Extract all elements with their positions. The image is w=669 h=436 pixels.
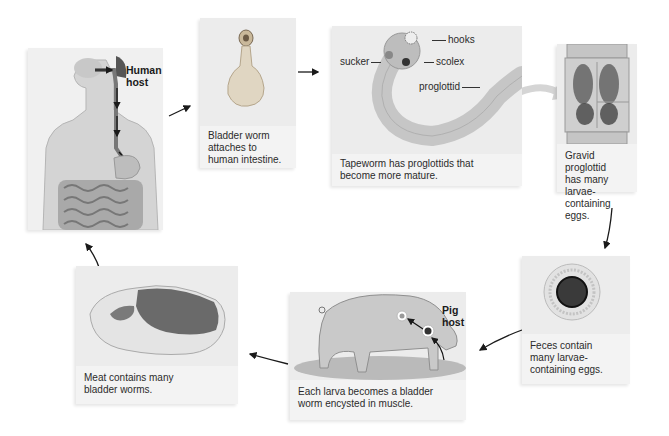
meat-illustration: [76, 266, 238, 366]
human-host-label-line2: host: [126, 76, 162, 88]
feces-caption: Feces contain many larvae- containing eg…: [522, 334, 630, 384]
pig-host-label-line2: host: [442, 316, 464, 328]
panel-feces-eggs: Feces contain many larvae- containing eg…: [522, 256, 630, 384]
callout-scolex-text: scolex: [436, 56, 464, 67]
caption-line: has many larvae-: [565, 174, 629, 198]
caption-line: attaches to: [208, 142, 288, 154]
caption-line: Feces contain: [530, 340, 622, 352]
panel-pig-host: Pig host Each larva becomes a bladder wo…: [290, 292, 466, 420]
panel-human-host: Human host: [28, 48, 163, 230]
caption-line: human intestine.: [208, 154, 288, 166]
panel-meat: Meat contains many bladder worms.: [76, 266, 238, 404]
caption-line: Gravid proglottid: [565, 150, 629, 174]
caption-line: worm encysted in muscle.: [298, 398, 458, 410]
gravid-proglottid-illustration: [557, 44, 637, 144]
callout-proglottid: proglottid: [419, 81, 480, 92]
arrow-feces-to-pig: [480, 330, 522, 350]
callout-proglottid-text: proglottid: [419, 81, 460, 92]
arrow-pig-to-meat: [250, 354, 288, 364]
meat-caption: Meat contains many bladder worms.: [76, 366, 238, 404]
caption-line: many larvae-: [530, 352, 622, 364]
caption-line: Meat contains many: [84, 372, 230, 384]
pig-caption: Each larva becomes a bladder worm encyst…: [290, 380, 466, 420]
callout-hooks-text: hooks: [448, 34, 475, 45]
pig-host-label-line1: Pig: [442, 304, 464, 316]
callout-sucker: sucker: [340, 56, 381, 67]
egg-illustration: [522, 256, 630, 328]
bladder-worm-illustration: [200, 18, 296, 126]
panel-gravid-proglottid: Gravid proglottid has many larvae- conta…: [557, 44, 637, 192]
callout-scolex: scolex: [424, 56, 464, 67]
tapeworm-caption: Tapeworm has proglottids that become mor…: [332, 154, 522, 186]
human-host-label-line1: Human: [126, 64, 162, 76]
caption-line: containing eggs.: [530, 364, 622, 376]
gravid-caption: Gravid proglottid has many larvae- conta…: [557, 144, 637, 192]
arrow-human-to-bladder: [169, 106, 190, 116]
caption-line: containing eggs.: [565, 198, 629, 222]
caption-line: Each larva becomes a bladder: [298, 386, 458, 398]
callout-sucker-text: sucker: [340, 56, 369, 67]
caption-line: become more mature.: [340, 170, 514, 182]
human-host-label: Human host: [126, 64, 162, 88]
panel-tapeworm: hooks sucker scolex proglottid Tapeworm …: [332, 26, 522, 186]
panel-bladder-worm: Bladder worm attaches to human intestine…: [200, 18, 296, 168]
callout-hooks: hooks: [432, 34, 475, 45]
caption-line: bladder worms.: [84, 384, 230, 396]
pig-illustration: [290, 292, 466, 380]
caption-line: Bladder worm: [208, 130, 288, 142]
bladder-worm-caption: Bladder worm attaches to human intestine…: [200, 126, 296, 168]
pig-host-label: Pig host: [442, 304, 464, 328]
caption-line: Tapeworm has proglottids that: [340, 158, 514, 170]
